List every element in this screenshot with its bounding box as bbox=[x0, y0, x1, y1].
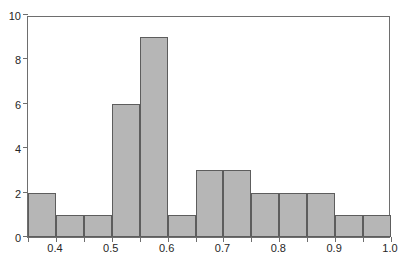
y-axis-tick-label: 6 bbox=[15, 99, 21, 110]
y-axis-tick-label: 2 bbox=[15, 188, 21, 199]
y-axis-tick bbox=[23, 14, 28, 15]
y-axis-tick-label: 4 bbox=[15, 144, 21, 155]
x-axis-tick-label: 1.0 bbox=[382, 243, 397, 254]
histogram-bar bbox=[56, 215, 84, 237]
histogram-bar bbox=[168, 215, 196, 237]
x-axis-tick bbox=[363, 237, 364, 242]
histogram-chart: 0246810 0.40.50.60.70.80.91.0 bbox=[0, 0, 408, 270]
x-axis-tick-label: 0.7 bbox=[215, 243, 230, 254]
histogram-bar bbox=[335, 215, 363, 237]
x-axis-tick bbox=[251, 237, 252, 242]
histogram-bar bbox=[84, 215, 112, 237]
histogram-bar bbox=[112, 104, 140, 237]
histogram-bar bbox=[279, 193, 307, 237]
y-axis-tick-label: 8 bbox=[15, 55, 21, 66]
bars-layer bbox=[28, 17, 389, 237]
histogram-bar bbox=[307, 193, 335, 237]
x-axis-tick bbox=[307, 237, 308, 242]
x-axis-tick-label: 0.6 bbox=[159, 243, 174, 254]
x-axis-tick-label: 0.5 bbox=[103, 243, 118, 254]
histogram-bar bbox=[223, 170, 251, 237]
histogram-bar bbox=[196, 170, 224, 237]
x-axis-tick bbox=[196, 237, 197, 242]
x-axis-tick bbox=[28, 237, 29, 242]
plot-area bbox=[28, 17, 389, 237]
y-axis-tick-label: 0 bbox=[15, 233, 21, 244]
x-axis-tick-label: 0.9 bbox=[326, 243, 341, 254]
histogram-bar bbox=[28, 193, 56, 237]
histogram-bar bbox=[251, 193, 279, 237]
y-axis-tick-label: 10 bbox=[9, 11, 21, 22]
y-axis-labels: 0246810 bbox=[0, 16, 21, 238]
x-axis-tick-label: 0.4 bbox=[47, 243, 62, 254]
x-axis-labels: 0.40.50.60.70.80.91.0 bbox=[27, 243, 390, 261]
x-axis-tick bbox=[84, 237, 85, 242]
histogram-bar bbox=[363, 215, 391, 237]
x-axis-tick-label: 0.8 bbox=[271, 243, 286, 254]
histogram-bar bbox=[140, 37, 168, 237]
x-axis-tick bbox=[140, 237, 141, 242]
plot-frame bbox=[27, 16, 390, 238]
